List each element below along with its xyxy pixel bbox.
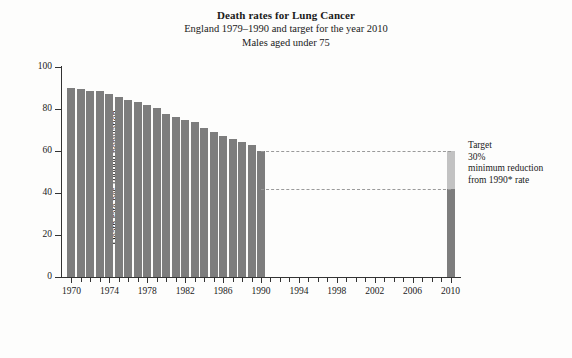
x-tick-minor	[195, 277, 196, 282]
x-tick-major	[413, 277, 414, 283]
x-tick-minor	[242, 277, 243, 282]
y-tick	[55, 109, 61, 110]
x-tick-major	[261, 277, 262, 283]
y-tick-label: 40	[12, 187, 52, 197]
x-tick-label: 1990	[241, 286, 281, 296]
x-tick-minor	[327, 277, 328, 282]
bar	[229, 139, 237, 277]
x-tick-label: 2002	[355, 286, 395, 296]
x-tick-minor	[176, 277, 177, 282]
x-tick-minor	[422, 277, 423, 282]
y-tick	[55, 277, 61, 278]
bar	[162, 114, 170, 277]
bar	[200, 128, 208, 277]
y-tick	[55, 193, 61, 194]
chart-title: Death rates for Lung Cancer	[0, 8, 572, 22]
bar	[96, 91, 104, 277]
bar-target-reduction	[447, 151, 455, 189]
title-block: Death rates for Lung Cancer England 1979…	[0, 8, 572, 50]
bar	[67, 88, 75, 277]
bar	[238, 142, 246, 277]
x-tick-label: 1974	[89, 286, 129, 296]
x-tick-major	[147, 277, 148, 283]
x-tick-minor	[204, 277, 205, 282]
bar	[172, 117, 180, 277]
bar	[143, 105, 151, 277]
bar	[153, 108, 161, 277]
annotation-line-2: 30%	[468, 152, 572, 164]
x-tick-minor	[394, 277, 395, 282]
x-tick-minor	[138, 277, 139, 282]
x-tick-minor	[308, 277, 309, 282]
annotation-line-1: Target	[468, 140, 572, 152]
x-tick-label: 1994	[279, 286, 319, 296]
y-tick-label: 0	[12, 271, 52, 281]
x-tick-minor	[318, 277, 319, 282]
x-tick-minor	[441, 277, 442, 282]
x-tick-label: 1978	[127, 286, 167, 296]
y-tick-label: 60	[12, 145, 52, 155]
y-tick	[55, 235, 61, 236]
y-tick	[55, 151, 61, 152]
x-tick-minor	[157, 277, 158, 282]
x-tick-minor	[384, 277, 385, 282]
x-tick-label: 1998	[317, 286, 357, 296]
y-tick	[55, 67, 61, 68]
bar	[86, 91, 94, 277]
x-tick-label: 1982	[165, 286, 205, 296]
x-tick-minor	[432, 277, 433, 282]
x-tick-label: 2006	[393, 286, 433, 296]
x-tick-minor	[289, 277, 290, 282]
x-tick-minor	[356, 277, 357, 282]
x-tick-major	[451, 277, 452, 283]
x-tick-minor	[128, 277, 129, 282]
bar	[105, 94, 113, 277]
bar-target-achieved	[447, 189, 455, 277]
x-tick-minor	[166, 277, 167, 282]
x-tick-major	[185, 277, 186, 283]
x-tick-minor	[81, 277, 82, 282]
x-tick-major	[71, 277, 72, 283]
annotation-line-4: from 1990* rate	[468, 175, 572, 187]
x-tick-minor	[270, 277, 271, 282]
chart-canvas: Death rates for Lung Cancer England 1979…	[0, 0, 572, 358]
bar	[219, 136, 227, 277]
y-tick-label: 20	[12, 229, 52, 239]
bar	[77, 89, 85, 277]
x-tick-minor	[100, 277, 101, 282]
chart-subtitle: England 1979–1990 and target for the yea…	[0, 22, 572, 36]
x-tick-minor	[403, 277, 404, 282]
target-annotation: Target 30% minimum reduction from 1990* …	[468, 140, 572, 186]
x-tick-label: 1986	[203, 286, 243, 296]
bar	[134, 102, 142, 277]
x-tick-major	[337, 277, 338, 283]
bar	[181, 120, 189, 278]
x-tick-minor	[280, 277, 281, 282]
bar	[248, 145, 256, 277]
bar	[210, 132, 218, 277]
x-tick-minor	[252, 277, 253, 282]
x-tick-minor	[233, 277, 234, 282]
annotation-line-3: minimum reduction	[468, 163, 572, 175]
x-tick-minor	[214, 277, 215, 282]
dashed-guide-line	[261, 189, 451, 190]
x-tick-major	[299, 277, 300, 283]
plot-area: Death rate per 100000 population	[62, 67, 460, 277]
y-tick-label: 80	[12, 103, 52, 113]
x-tick-minor	[346, 277, 347, 282]
bar	[191, 122, 199, 277]
bar	[124, 100, 132, 277]
chart-subtitle-2: Males aged under 75	[0, 36, 572, 50]
x-tick-label: 1970	[51, 286, 91, 296]
dashed-guide-line	[261, 151, 451, 152]
x-tick-minor	[90, 277, 91, 282]
x-tick-major	[375, 277, 376, 283]
bar	[115, 97, 123, 277]
x-tick-major	[223, 277, 224, 283]
y-tick-label: 100	[12, 61, 52, 71]
x-tick-label: 2010	[431, 286, 471, 296]
bar	[257, 151, 265, 277]
x-tick-minor	[365, 277, 366, 282]
